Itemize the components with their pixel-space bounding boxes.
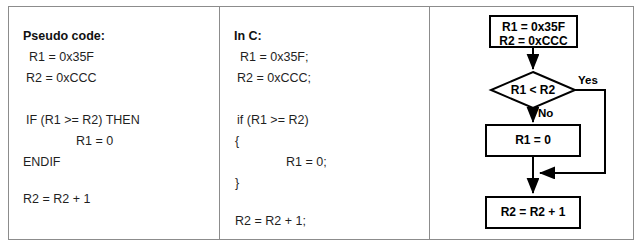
c-code-title: In C:: [234, 29, 262, 43]
pseudo-code-line-6: R2 = R2 + 1: [23, 192, 90, 206]
pseudo-code-line-4: R1 = 0: [76, 134, 113, 148]
edge-label-yes: Yes: [578, 74, 598, 86]
c-code-column: In C: R1 = 0x35F; R2 = 0xCCC; if (R1 >= …: [220, 7, 429, 239]
flowchart-column: R1 = 0x35F R2 = 0xCCC R1 < R2 R1 = 0 R2 …: [430, 7, 635, 239]
c-code-line-2: R2 = 0xCCC;: [237, 71, 311, 85]
c-code-line-1: R1 = 0x35F;: [240, 50, 308, 64]
c-code-line-3: if (R1 >= R2): [237, 113, 309, 127]
pseudo-code-title: Pseudo code:: [23, 29, 105, 43]
pseudo-code-line-1: R1 = 0x35F: [29, 50, 94, 64]
c-code-line-4: {: [235, 134, 239, 148]
c-code-line-6: }: [235, 176, 239, 190]
node-decision-label: R1 < R2: [491, 83, 575, 97]
node-assign-label: R1 = 0: [486, 133, 580, 147]
c-code-line-5: R1 = 0;: [286, 155, 327, 169]
node-init-line-1: R1 = 0x35F: [490, 20, 577, 34]
figure-root: Pseudo code: R1 = 0x35F R2 = 0xCCC IF (R…: [0, 0, 641, 247]
pseudo-code-line-5: ENDIF: [23, 155, 61, 169]
node-increment-label: R2 = R2 + 1: [486, 205, 580, 219]
pseudo-code-line-2: R2 = 0xCCC: [26, 71, 97, 85]
c-code-line-7: R2 = R2 + 1;: [235, 214, 306, 228]
pseudo-code-column: Pseudo code: R1 = 0x35F R2 = 0xCCC IF (R…: [9, 7, 219, 239]
edge-label-no: No: [538, 107, 553, 119]
pseudo-code-line-3: IF (R1 >= R2) THEN: [26, 113, 140, 127]
node-init-line-2: R2 = 0xCCC: [490, 34, 577, 48]
comparison-table: Pseudo code: R1 = 0x35F R2 = 0xCCC IF (R…: [8, 6, 634, 240]
